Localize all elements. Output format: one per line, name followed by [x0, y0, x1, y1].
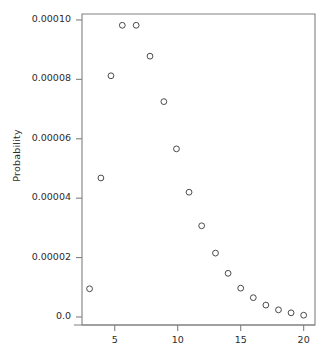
axes-frame — [82, 14, 315, 325]
data-point — [225, 270, 231, 276]
plot-area — [0, 0, 328, 361]
data-point — [87, 286, 93, 292]
data-point — [98, 175, 104, 181]
data-point — [133, 22, 139, 28]
data-point — [186, 189, 192, 195]
data-point — [199, 223, 205, 229]
data-point — [213, 250, 219, 256]
data-point — [250, 295, 256, 301]
data-point — [301, 312, 307, 318]
data-point — [276, 307, 282, 313]
probability-scatter-figure: Probability 0.00.000020.000040.000060.00… — [0, 0, 328, 361]
data-point — [147, 53, 153, 59]
data-point — [288, 310, 294, 316]
data-point — [238, 285, 244, 291]
data-point — [108, 73, 114, 79]
data-point — [174, 146, 180, 152]
data-point — [263, 302, 269, 308]
data-point — [161, 99, 167, 105]
data-point — [119, 22, 125, 28]
